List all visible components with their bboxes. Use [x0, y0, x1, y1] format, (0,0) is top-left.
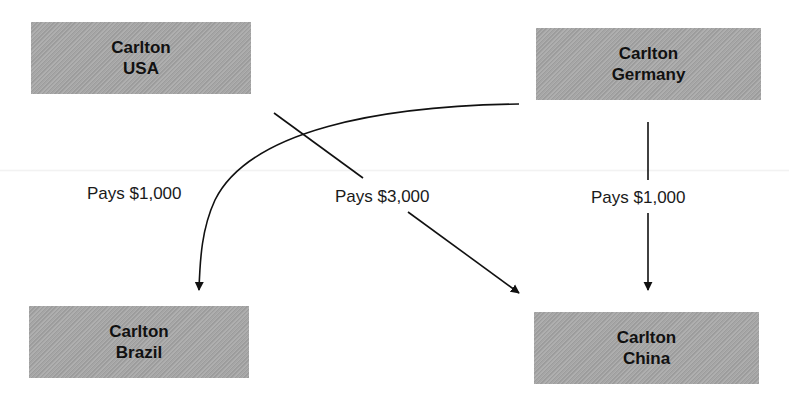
- entity-country: China: [623, 348, 670, 369]
- entity-country: Germany: [612, 64, 686, 85]
- flow-label-usa-china: Pays $3,000: [335, 187, 430, 207]
- entity-country: USA: [123, 58, 159, 79]
- entity-name: Carlton: [111, 37, 171, 58]
- entity-carlton-china: Carlton China: [534, 312, 759, 384]
- flow-label-germany-china: Pays $1,000: [591, 188, 686, 208]
- entity-carlton-germany: Carlton Germany: [536, 28, 761, 100]
- entity-carlton-usa: Carlton USA: [31, 22, 251, 94]
- arrow-usa-to-china-upper: [274, 113, 363, 178]
- flow-label-germany-brazil: Pays $1,000: [87, 184, 182, 204]
- entity-country: Brazil: [116, 342, 162, 363]
- entity-carlton-brazil: Carlton Brazil: [29, 306, 249, 378]
- entity-name: Carlton: [617, 327, 677, 348]
- entity-name: Carlton: [619, 43, 679, 64]
- entity-name: Carlton: [109, 321, 169, 342]
- arrow-usa-to-china-lower: [408, 212, 519, 293]
